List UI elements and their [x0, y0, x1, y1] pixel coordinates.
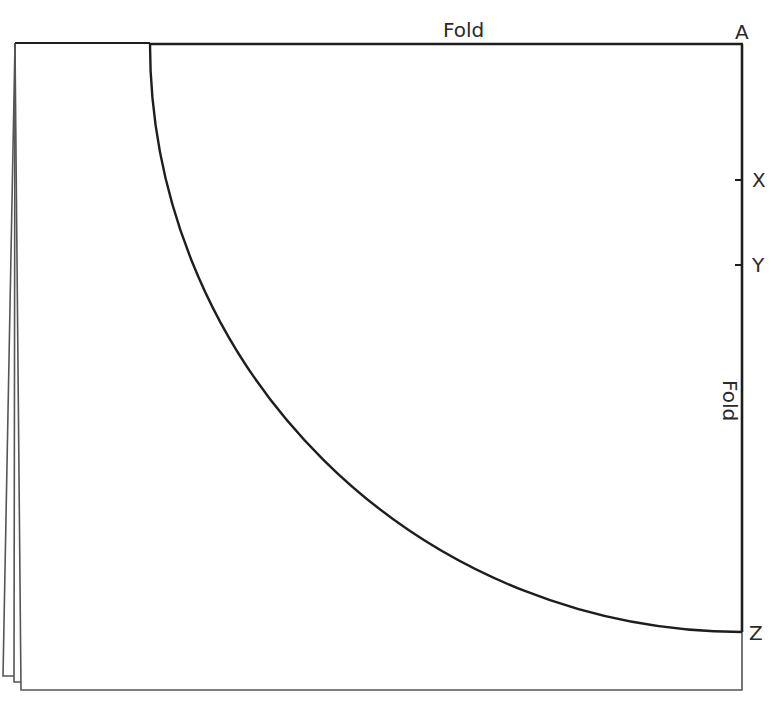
folding-diagram: Fold A X Y Fold Z [0, 0, 773, 711]
quarter-circle-cut-line [150, 44, 742, 632]
diagram-canvas [0, 0, 773, 711]
corner-a-label: A [735, 22, 749, 42]
point-z-label: Z [749, 623, 763, 643]
top-fold-label: Fold [443, 20, 484, 40]
point-x-label: X [752, 170, 766, 190]
paper-sheet-outline [15, 43, 742, 690]
right-fold-label: Fold [720, 380, 740, 421]
point-y-label: Y [752, 255, 764, 275]
paper-layer-3 [3, 43, 15, 676]
